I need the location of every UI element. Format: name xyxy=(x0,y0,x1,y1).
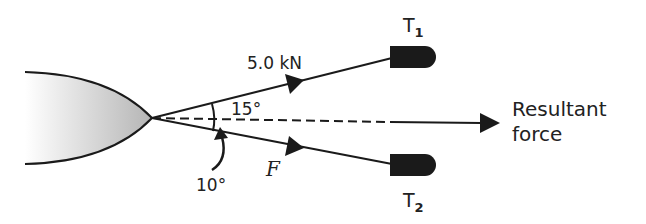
tug-label-t2: T2 xyxy=(402,189,424,215)
arrowhead-icon xyxy=(285,136,304,156)
resultant-force-line xyxy=(152,113,500,133)
resultant-label-line2: force xyxy=(512,122,562,146)
angle-arc xyxy=(212,104,214,131)
arrowhead-icon xyxy=(480,113,500,133)
resultant-label-line1: Resultant xyxy=(512,97,607,121)
arrowhead-icon xyxy=(285,74,304,94)
angle-pointer xyxy=(212,127,228,170)
force-label-top: 5.0 kN xyxy=(247,53,302,73)
force-label-bottom: F xyxy=(265,157,281,181)
angle-label-top: 15° xyxy=(231,99,261,119)
tug-t1-icon xyxy=(390,46,436,68)
angle-label-bottom: 10° xyxy=(196,175,226,195)
tug-t2-icon xyxy=(390,154,436,176)
force-diagram: 5.0 kN 15° 10° F T1 T2 Resultant force xyxy=(0,0,646,224)
tug-label-t1: T1 xyxy=(402,14,424,40)
ship-hull xyxy=(25,72,152,164)
